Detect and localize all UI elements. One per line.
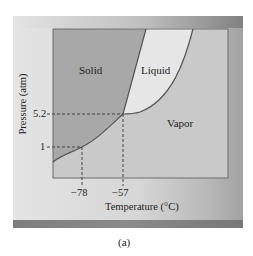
figure-caption: (a) [118,236,130,248]
solid-label: Solid [79,65,102,76]
x-tick-minus-78: −78 [71,188,87,199]
liquid-label: Liquid [141,65,170,76]
y-tick-1: 1 [40,142,45,153]
vapor-label: Vapor [167,118,193,129]
phase-diagram-plot [0,0,253,256]
x-axis-label: Temperature (°C) [105,202,179,213]
x-tick-minus-57: −57 [112,188,128,199]
y-axis-label: Pressure (atm) [17,74,28,135]
y-tick-5-2: 5.2 [33,109,46,120]
